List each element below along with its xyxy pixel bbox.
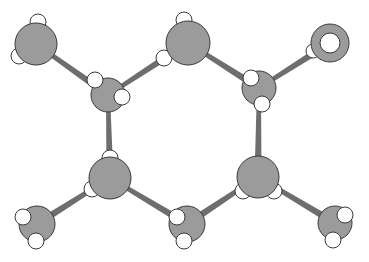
upper-left-carbon — [87, 72, 130, 112]
bonds-layer — [35, 40, 337, 227]
hydrogen-atom — [176, 233, 192, 249]
bottom-middle-atom — [169, 206, 205, 249]
ring-hole — [320, 33, 340, 53]
hydrogen-atom — [114, 89, 130, 105]
top-middle-atom — [156, 12, 210, 66]
heavy-atom — [89, 157, 131, 199]
bottom-right-atom — [318, 206, 353, 248]
top-left-atom — [11, 14, 57, 65]
lower-left-carbon — [84, 150, 131, 199]
hydrogen-atom — [243, 70, 259, 86]
hydrogen-atom — [87, 72, 103, 88]
hydrogen-atom — [28, 233, 44, 249]
lower-right-carbon — [235, 156, 282, 199]
heavy-atom — [237, 156, 279, 198]
bottom-left-atom — [15, 206, 55, 249]
heavy-atom — [15, 23, 57, 65]
hydrogen-atom — [169, 209, 185, 225]
hydrogen-atom — [325, 232, 341, 248]
hydrogen-atom — [254, 96, 270, 112]
heavy-atom — [166, 21, 210, 65]
atoms-layer — [11, 12, 353, 249]
upper-right-carbon — [242, 70, 276, 112]
hydrogen-atom — [15, 209, 31, 225]
molecule-diagram — [0, 0, 369, 262]
hydrogen-atom — [337, 207, 353, 223]
top-right-ring-atom — [306, 24, 349, 62]
